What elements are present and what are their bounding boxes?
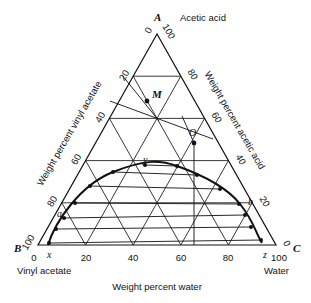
vertex-a-letter: A <box>153 11 161 23</box>
tie-lines <box>49 165 261 243</box>
svg-text:100: 100 <box>271 252 287 263</box>
ternary-diagram: M O y a b x z A B C Acetic acid Vinyl ac… <box>0 0 311 303</box>
svg-text:20: 20 <box>258 194 273 209</box>
svg-text:0: 0 <box>142 25 154 35</box>
svg-text:0: 0 <box>31 252 36 263</box>
label-m: M <box>151 88 163 100</box>
vertex-b-name: Vinyl acetate <box>17 265 71 276</box>
label-z: z <box>262 249 267 260</box>
svg-text:60: 60 <box>176 252 187 263</box>
svg-text:60: 60 <box>69 152 84 167</box>
svg-text:80: 80 <box>223 252 234 263</box>
svg-text:40: 40 <box>234 152 249 167</box>
svg-text:80: 80 <box>186 67 201 82</box>
vertex-c-letter: C <box>293 242 301 254</box>
label-y: y <box>142 154 148 165</box>
vertex-c-name: Water <box>264 265 289 276</box>
svg-text:0: 0 <box>281 238 293 248</box>
bottom-axis-title: Weight percent water <box>112 281 202 292</box>
svg-text:80: 80 <box>45 194 60 209</box>
svg-text:20: 20 <box>81 252 92 263</box>
svg-text:40: 40 <box>128 252 139 263</box>
label-b: b <box>248 196 253 207</box>
bottom-axis-ticks: 0 20 40 60 80 100 <box>31 252 287 263</box>
left-axis-title: Weight percent vinyl acetate <box>34 79 103 188</box>
svg-text:100: 100 <box>160 22 177 41</box>
label-a: a <box>57 208 62 219</box>
svg-text:40: 40 <box>93 110 108 125</box>
vertex-a-name: Acetic acid <box>180 12 226 23</box>
svg-text:60: 60 <box>210 110 225 125</box>
label-x: x <box>46 249 52 260</box>
construction-lines <box>110 75 213 245</box>
svg-text:20: 20 <box>117 68 132 83</box>
point-o-marker <box>192 141 197 146</box>
svg-text:100: 100 <box>19 233 36 252</box>
label-o: O <box>189 127 196 138</box>
right-axis-ticks: 100 80 60 40 20 0 <box>160 22 293 249</box>
point-m-marker <box>145 99 150 104</box>
